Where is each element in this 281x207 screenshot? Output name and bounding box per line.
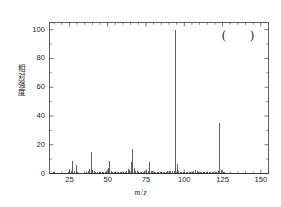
x-tick-label: 125 <box>210 176 236 184</box>
annotation-paren-close: ) <box>250 28 254 43</box>
x-tick-label: 100 <box>171 176 197 184</box>
x-tick-label-group: 255075100125150 <box>0 0 281 207</box>
x-axis-title: m/z <box>0 188 281 197</box>
x-axis-title-z: z <box>143 188 146 197</box>
x-tick-label: 150 <box>248 176 274 184</box>
x-tick-label: 75 <box>133 176 159 184</box>
x-tick-label: 25 <box>56 176 82 184</box>
x-tick-label: 50 <box>95 176 121 184</box>
mass-spectrum-figure: 相对强度 020406080100 255075100125150 m/z ( … <box>0 0 281 207</box>
annotation-paren-open: ( <box>222 28 226 43</box>
